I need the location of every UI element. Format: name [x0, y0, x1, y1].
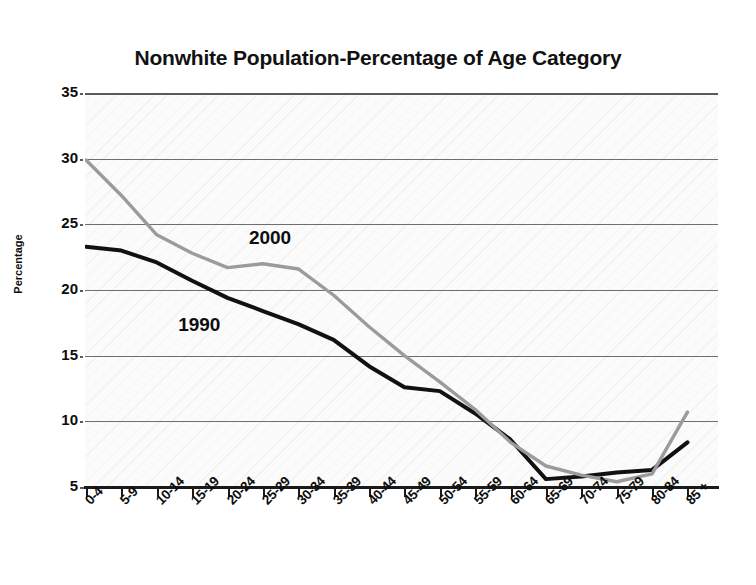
- plot-area: [84, 93, 718, 487]
- y-tick-label-30: 30: [42, 149, 78, 166]
- series-lines: [84, 93, 718, 487]
- y-tick-label-25: 25: [42, 214, 78, 231]
- y-tick-label-10: 10: [42, 411, 78, 428]
- series-line-2000: [86, 160, 687, 482]
- chart-title: Nonwhite Population-Percentage of Age Ca…: [0, 46, 756, 70]
- series-annotation-1990: 1990: [178, 314, 220, 336]
- chart-figure: Nonwhite Population-Percentage of Age Ca…: [0, 0, 756, 585]
- y-tick-label-35: 35: [42, 83, 78, 100]
- y-axis-title: Percentage: [12, 219, 24, 309]
- y-axis-tick-labels: 5101520253035: [38, 0, 78, 585]
- series-line-1990: [86, 247, 687, 479]
- series-annotation-2000: 2000: [249, 227, 291, 249]
- y-tick-label-5: 5: [42, 477, 78, 494]
- y-tick-label-20: 20: [42, 280, 78, 297]
- y-axis-line: [83, 93, 85, 487]
- y-tick-label-15: 15: [42, 346, 78, 363]
